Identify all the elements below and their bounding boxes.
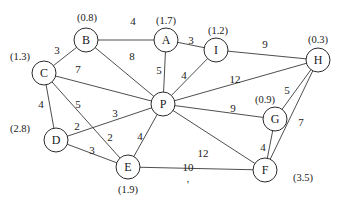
node-d: D [44, 128, 68, 152]
edge-weight-label: 4 [38, 98, 44, 110]
node-label: D [52, 133, 61, 147]
node-b: B [74, 28, 98, 52]
node-label: E [124, 160, 131, 174]
edge-weight-label: 7 [298, 116, 304, 128]
graph-svg: 4393854712453223495741210 ABCDEFGHIP (1.… [0, 0, 342, 204]
node-label: F [262, 163, 269, 177]
node-value-g: (0.9) [255, 94, 276, 106]
edge-weight-label: 2 [107, 131, 113, 143]
edge-i-h [216, 50, 318, 60]
node-p: P [151, 92, 175, 116]
edge-weight-label: 5 [284, 84, 290, 96]
edge-weight-label: 2 [74, 120, 80, 132]
node-a: A [154, 28, 178, 52]
edge-weight-label: 5 [75, 98, 81, 110]
edge-weight-label: 3 [188, 34, 194, 46]
node-value-f: (3.5) [293, 172, 314, 184]
node-value-i: (1.2) [208, 25, 229, 37]
node-value-d: (2.8) [10, 123, 31, 135]
edge-weight-label: 9 [230, 102, 236, 114]
edge-p-g [163, 104, 275, 119]
edge-p-h [163, 60, 318, 104]
node-value-e: (1.9) [118, 184, 139, 196]
edge-c-p [44, 73, 163, 104]
node-f: F [253, 158, 277, 182]
edge-weight-label: 8 [129, 50, 135, 62]
node-value-b: (0.8) [77, 12, 98, 24]
edge-weight-label: 4 [260, 141, 266, 153]
edge-weight-label: 4 [181, 69, 187, 81]
node-label: G [271, 112, 280, 126]
node-e: E [116, 155, 140, 179]
edge-weight-label: 3 [89, 144, 95, 156]
edge-weight-label: 9 [262, 38, 268, 50]
edge-weight-label: 10 [183, 161, 195, 173]
node-label: H [314, 53, 323, 67]
edge-p-f [163, 104, 265, 170]
node-value-h: (0.3) [308, 34, 329, 46]
node-c: C [32, 61, 56, 85]
node-value-c: (1.3) [10, 51, 31, 63]
edge-e-f [128, 167, 265, 170]
node-g: G [263, 107, 287, 131]
node-label: B [82, 33, 90, 47]
graph-diagram: 4393854712453223495741210 ABCDEFGHIP (1.… [0, 0, 342, 204]
edge-weight-label: 4 [137, 130, 143, 142]
node-label: C [40, 66, 48, 80]
node-value-a: (1.7) [156, 15, 177, 27]
node-i: I [204, 38, 228, 62]
stray-mark: ' [187, 178, 189, 190]
edge-weight-label: 3 [112, 107, 118, 119]
node-label: A [162, 33, 171, 47]
node-label: I [214, 43, 218, 57]
edge-weight-label: 7 [75, 63, 81, 75]
edge-weight-label: 5 [156, 64, 162, 76]
node-label: P [160, 97, 167, 111]
node-h: H [306, 48, 330, 72]
edges-layer [44, 40, 318, 170]
edge-weight-label: 12 [230, 73, 241, 85]
edge-weight-label: 4 [130, 15, 136, 27]
edge-weight-label: 12 [198, 147, 209, 159]
edge-weight-label: 3 [54, 44, 60, 56]
